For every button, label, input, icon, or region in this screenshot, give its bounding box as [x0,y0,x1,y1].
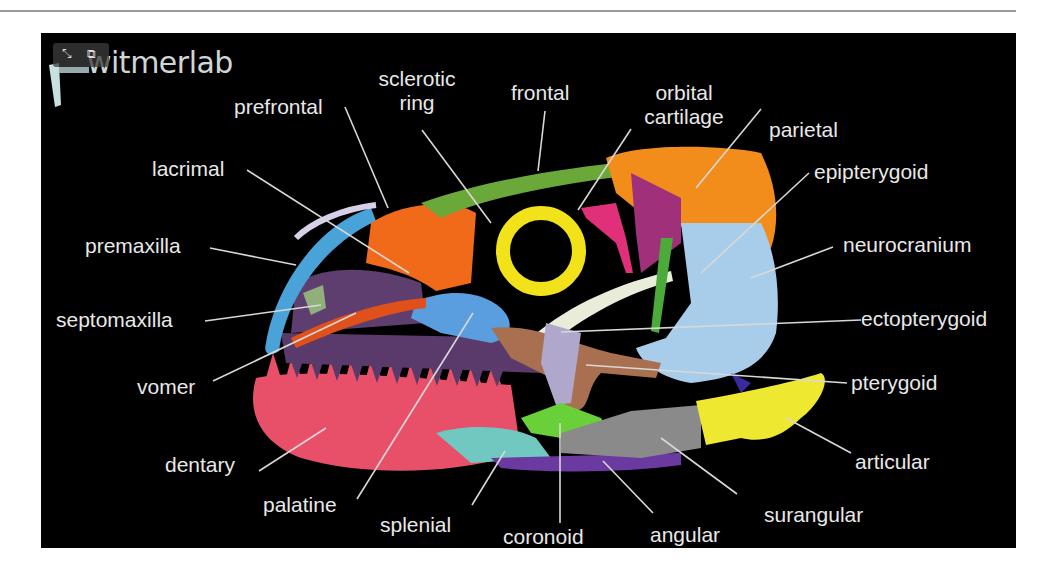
label-septomaxilla: septomaxilla [56,308,173,332]
label-epipterygoid: epipterygoid [814,160,928,184]
label-splenial: splenial [380,513,451,537]
articular-bone [696,373,825,445]
picture-in-picture-icon[interactable]: ⧉ [83,47,99,61]
sclerotic-ring-bone [503,213,579,289]
overlay-controls: ⤡ ⧉ [53,43,109,67]
label-vomer: vomer [137,375,195,399]
label-sclerotic-ring: sclerotic ring [367,67,467,115]
label-angular: angular [650,523,720,547]
label-ectopterygoid: ectopterygoid [861,307,987,331]
label-orbital-cartilage: orbital cartilage [629,81,739,129]
label-dentary: dentary [165,453,235,477]
label-neurocranium: neurocranium [843,233,971,257]
label-premaxilla: premaxilla [85,234,181,258]
skull-diagram-panel: witmerlab ⤡ ⧉ prefrontal sclerotic ring … [41,33,1016,548]
label-lacrimal: lacrimal [152,157,224,181]
label-parietal: parietal [769,118,838,142]
label-orbital-cartilage-line2: cartilage [629,105,739,129]
label-surangular: surangular [764,503,863,527]
label-palatine: palatine [263,493,337,517]
label-pterygoid: pterygoid [851,371,937,395]
label-orbital-cartilage-line1: orbital [629,81,739,105]
label-articular: articular [855,450,930,474]
orbital-cartilage [581,203,633,273]
expand-icon[interactable]: ⤡ [59,47,75,61]
top-divider [0,10,1016,12]
label-sclerotic-ring-line2: ring [367,91,467,115]
witmerlab-logo: witmerlab ⤡ ⧉ [47,41,207,101]
label-frontal: frontal [511,81,569,105]
label-prefrontal: prefrontal [234,95,323,119]
label-sclerotic-ring-line1: sclerotic [367,67,467,91]
label-coronoid: coronoid [503,525,584,548]
